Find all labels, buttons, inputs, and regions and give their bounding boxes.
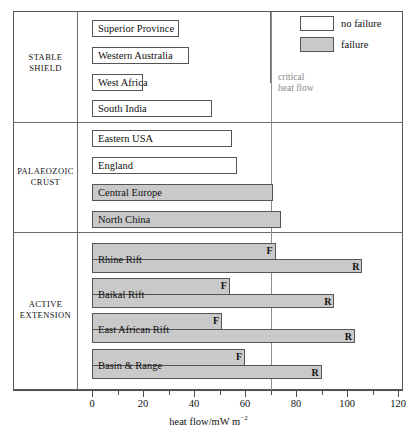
legend-swatch-no-failure: [300, 16, 334, 31]
x-axis-tick-label: 0: [89, 398, 94, 410]
x-axis-tick-label: 100: [339, 398, 355, 410]
bar-label: Superior Province: [98, 20, 174, 37]
bar-label: Western Australia: [98, 47, 173, 64]
bar-label: Rhine Rift: [98, 251, 142, 268]
x-axis-minor-tick: [118, 391, 119, 395]
group-label-active-extension: ACTIVE EXTENSION: [14, 299, 77, 321]
legend-label-failure: failure: [341, 37, 368, 52]
group-label-line2: SHIELD: [14, 63, 77, 74]
marker-r-label: R: [324, 297, 331, 307]
group-label-line1: STABLE: [14, 52, 77, 63]
chart-root: STABLE SHIELD PALAEOZOIC CRUST ACTIVE EX…: [0, 0, 417, 432]
x-axis-line: [13, 390, 403, 391]
group-label-palaeozoic-crust: PALAEOZOIC CRUST: [14, 166, 77, 188]
x-axis-title-exponent: −2: [240, 414, 247, 422]
critical-label-line1: critical: [278, 72, 314, 83]
x-axis-major-tick: [398, 391, 399, 397]
legend-swatch-failure: [300, 37, 334, 52]
x-axis-minor-tick: [271, 391, 272, 395]
x-axis-tick-label: 80: [291, 398, 302, 410]
x-axis-minor-tick: [169, 391, 170, 395]
x-axis-title-text: heat flow/mW m: [169, 416, 240, 427]
bar-label: England: [98, 157, 133, 174]
bar-label: Baikal Rift: [98, 286, 144, 303]
bar-label: Basin & Range: [98, 357, 162, 374]
x-axis-major-tick: [296, 391, 297, 397]
critical-heat-flow-label: critical heat flow: [278, 72, 314, 94]
x-axis-minor-tick: [373, 391, 374, 395]
marker-f-label: F: [236, 352, 242, 362]
bar-label: North China: [98, 211, 150, 228]
bar-label: East African Rift: [98, 321, 169, 338]
bar-label: West Africa: [98, 74, 148, 91]
critical-label-line2: heat flow: [278, 83, 314, 94]
group-label-line2: EXTENSION: [14, 310, 77, 321]
x-axis-tick-label: 60: [240, 398, 251, 410]
legend-label-no-failure: no failure: [341, 16, 382, 31]
bar-label: Central Europe: [98, 184, 162, 201]
x-axis-minor-tick: [220, 391, 221, 395]
marker-f-label: F: [267, 246, 273, 256]
x-axis-major-tick: [194, 391, 195, 397]
x-axis-major-tick: [245, 391, 246, 397]
marker-r-label: R: [345, 332, 352, 342]
x-axis-major-tick: [143, 391, 144, 397]
group-divider-1: [13, 122, 403, 123]
category-column-divider: [77, 11, 78, 390]
bar-label: South India: [98, 100, 147, 117]
x-axis-tick-label: 20: [138, 398, 149, 410]
x-axis-major-tick: [92, 391, 93, 397]
x-axis-title: heat flow/mW m−2: [0, 414, 417, 427]
group-label-line2: CRUST: [14, 177, 77, 188]
bar-label: Eastern USA: [98, 130, 153, 147]
x-axis-tick-label: 120: [390, 398, 406, 410]
group-label-line1: ACTIVE: [14, 299, 77, 310]
group-label-stable-shield: STABLE SHIELD: [14, 52, 77, 74]
x-axis-major-tick: [347, 391, 348, 397]
marker-f-label: F: [213, 316, 219, 326]
group-divider-2: [13, 232, 403, 233]
x-axis-tick-label: 40: [189, 398, 200, 410]
marker-r-label: R: [312, 368, 319, 378]
marker-r-label: R: [352, 262, 359, 272]
x-axis-minor-tick: [322, 391, 323, 395]
marker-f-label: F: [221, 281, 227, 291]
group-label-line1: PALAEOZOIC: [14, 166, 77, 177]
